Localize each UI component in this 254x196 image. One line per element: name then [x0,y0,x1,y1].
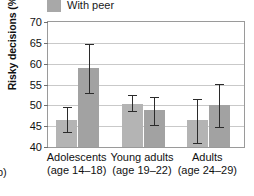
error-bar-cap-lower [85,93,94,94]
error-bar-cap-lower [193,143,202,144]
y-axis-tick-label: 45 [30,120,42,132]
error-bar-cap-upper [150,97,159,98]
legend-label-with-peer: With peer [67,0,114,12]
error-bar-cap-upper [63,107,72,108]
error-bar [89,44,90,93]
error-bar-cap-lower [63,132,72,133]
legend-swatch-with-peer-icon [47,0,61,12]
error-bar-cap-upper [85,44,94,45]
y-axis-tick-label: 70 [30,16,42,28]
y-axis-tick-mark [44,85,48,86]
error-bar-cap-upper [215,84,224,85]
y-axis-title: Risky decisions (%) [6,0,18,102]
error-bar [219,84,220,128]
error-bar [197,99,198,143]
error-bar [154,97,155,125]
y-axis-tick-label: 60 [30,58,42,70]
x-axis-group-age-range: (age 24–29) [162,164,252,177]
error-bar-cap-lower [128,111,137,112]
y-axis-tick-label: 65 [30,37,42,49]
chart-legend: With peer [47,0,114,14]
y-axis-tick-label: 55 [30,79,42,91]
chart-figure: With peer Risky decisions (%) b) 4045505… [0,0,254,196]
error-bar-cap-lower [215,127,224,128]
gridline [48,64,244,65]
error-bar [132,95,133,110]
y-axis-tick-mark [44,105,48,106]
gridline [48,43,244,44]
y-axis-tick-mark [44,147,48,148]
error-bar-cap-upper [193,99,202,100]
x-axis-group-name: Adults [192,151,223,163]
error-bar-cap-upper [128,95,137,96]
y-axis-tick-mark [44,22,48,23]
y-axis-tick-label: 50 [30,99,42,111]
y-axis-tick-mark [44,126,48,127]
y-axis-tick-mark [44,64,48,65]
y-axis-tick-mark [44,43,48,44]
error-bar [67,107,68,132]
x-axis-group-label: Adults(age 24–29) [162,151,252,177]
panel-label: b) [0,166,7,178]
plot-area: 40455055606570 [47,21,245,148]
error-bar-cap-lower [150,125,159,126]
